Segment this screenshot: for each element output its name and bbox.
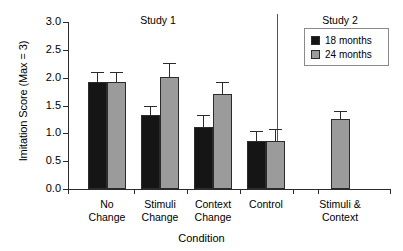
error-bar-stem [203,115,204,127]
x-axis-tick [240,189,241,194]
error-bar [197,115,210,127]
error-bar [334,111,347,120]
x-axis-line [68,189,390,190]
bar-24-months-stimuli-change [160,77,179,189]
bar-24-months-stimuli-context [331,119,350,189]
x-axis-tick [134,189,135,194]
y-axis-tick [63,50,68,51]
legend-swatch-icon [311,36,320,45]
error-bar-cap [144,106,157,107]
x-axis-tick [293,189,294,194]
error-bar-cap [197,115,210,116]
error-bar [144,106,157,115]
y-axis-tick [63,22,68,23]
x-axis-tick [68,189,69,194]
x-axis-label: Condition [0,232,403,244]
y-axis-tick-label: 0.0 [28,183,61,194]
category-label-line: Stimuli & [295,198,385,211]
legend-label: 24 months [325,49,372,60]
error-bar-stem [169,63,170,76]
error-bar-cap [250,131,263,132]
y-axis-line [68,22,69,190]
error-bar-cap [269,129,282,130]
bar-18-months-context-change [194,127,213,189]
error-bar-stem [340,111,341,120]
error-bar-cap [91,72,104,73]
y-axis-tick-label: 3.0 [28,16,61,27]
bar-18-months-control [247,141,266,189]
error-bar-stem [97,72,98,83]
error-bar-cap [334,111,347,112]
error-bar [110,72,123,82]
y-axis-tick [63,161,68,162]
error-bar [250,131,263,140]
error-bar-cap [216,82,229,83]
error-bar [269,129,282,140]
legend: 18 months24 months [304,28,389,66]
bar-18-months-no-change [88,82,107,189]
category-label-stimuli-context: Stimuli &Context [295,198,385,223]
y-axis-tick-label: 1.5 [28,100,61,111]
y-axis-tick-label: 0.5 [28,155,61,166]
imitation-score-bar-chart: Imitation Score (Max = 3) Study 1 Study … [0,0,403,251]
error-bar-stem [150,106,151,115]
legend-item-24-months: 24 months [311,47,383,61]
error-bar-stem [256,131,257,140]
error-bar-stem [116,72,117,82]
y-axis-tick-label: 2.5 [28,44,61,55]
error-bar-cap [163,63,176,64]
category-label-line: Change [168,211,258,224]
category-label-line: Context [295,211,385,224]
x-axis-tick [187,189,188,194]
y-axis-tick-label: 2.0 [28,72,61,83]
x-axis-tick [390,189,391,194]
bar-24-months-context-change [213,94,232,189]
error-bar-stem [275,129,276,140]
error-bar-stem [222,82,223,94]
bar-18-months-stimuli-change [141,115,160,189]
y-axis-tick [63,106,68,107]
legend-swatch-icon [311,50,320,59]
bar-24-months-control [266,141,285,189]
error-bar [91,72,104,83]
error-bar-cap [110,72,123,73]
error-bar [163,63,176,76]
x-axis-tick [318,189,319,194]
error-bar [216,82,229,94]
legend-item-18-months: 18 months [311,33,383,47]
bar-24-months-no-change [107,82,126,189]
y-axis-tick [63,133,68,134]
y-axis-tick-label: 1.0 [28,127,61,138]
legend-label: 18 months [325,35,372,46]
y-axis-tick [63,78,68,79]
